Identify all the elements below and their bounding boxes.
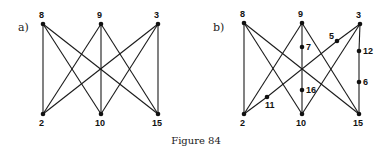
edge-3-5 — [337, 24, 360, 41]
node-9 — [300, 21, 305, 26]
node-6 — [357, 80, 362, 85]
node-label: 15 — [152, 118, 162, 128]
node-label: 9 — [97, 10, 102, 20]
node-label: 8 — [240, 9, 245, 19]
node-10 — [99, 112, 104, 117]
node-label: 3 — [356, 10, 361, 20]
node-label: 11 — [265, 100, 275, 110]
edge-3-12 — [359, 24, 360, 51]
panel-a: a)89321015 — [18, 10, 162, 128]
node-8 — [242, 21, 247, 26]
node-15 — [357, 112, 362, 117]
node-2 — [41, 112, 46, 117]
node-label: 8 — [39, 10, 44, 20]
panel-b: b)89321015716126511 — [213, 9, 373, 128]
node-label: 16 — [306, 85, 316, 95]
node-label: 10 — [296, 118, 306, 128]
node-label: 10 — [95, 118, 105, 128]
node-5 — [335, 39, 340, 44]
figure-caption: Figure 84 — [0, 135, 392, 146]
node-15 — [156, 112, 161, 117]
node-12 — [357, 49, 362, 54]
node-label: 5 — [329, 31, 334, 41]
node-7 — [300, 45, 305, 50]
node-label: 12 — [363, 46, 373, 56]
node-label: 3 — [154, 10, 159, 20]
node-label: 7 — [306, 42, 311, 52]
node-2 — [242, 112, 247, 117]
node-8 — [41, 22, 46, 27]
node-3 — [156, 22, 161, 27]
node-label: 2 — [39, 118, 44, 128]
node-9 — [99, 22, 104, 27]
node-10 — [300, 112, 305, 117]
node-label: 15 — [353, 118, 363, 128]
panel-label: b) — [213, 21, 224, 34]
node-3 — [358, 22, 363, 27]
node-11 — [265, 95, 270, 100]
node-16 — [300, 88, 305, 93]
edge-11-2 — [244, 97, 267, 114]
graph-diagram: a)89321015b)89321015716126511 — [0, 0, 392, 153]
node-label: 2 — [240, 118, 245, 128]
panel-label: a) — [18, 21, 29, 34]
node-label: 9 — [298, 9, 303, 19]
node-label: 6 — [363, 77, 368, 87]
